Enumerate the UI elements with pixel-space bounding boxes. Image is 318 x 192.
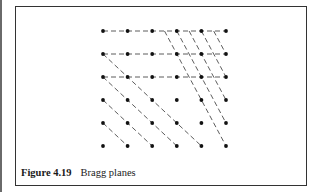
figure-label: Figure 4.19 [21,167,72,178]
lattice-point [150,121,154,125]
steep-plane-line [165,31,227,146]
lattice-point [224,98,228,102]
lattice-point [200,29,204,33]
lattice-point [126,121,130,125]
lattice-point [150,29,154,33]
lattice-point [150,98,154,102]
lattice-point [224,29,228,33]
lattice-point [126,75,130,79]
figure-caption: Figure 4.19Bragg planes [21,167,136,178]
lattice-point [200,75,204,79]
lattice-point [224,144,228,148]
plane-lines [103,31,226,146]
lattice-point [175,29,179,33]
lattice-point [224,121,228,125]
lattice-point [101,98,105,102]
lattice-point [150,144,154,148]
bragg-lattice-diagram [0,0,318,192]
lattice-point [175,144,179,148]
steep-plane-line [201,31,226,77]
lattice-point [200,98,204,102]
lattice-point [126,144,130,148]
lattice-point [224,52,228,56]
lattice-points [101,29,228,148]
steep-plane-line [214,31,226,54]
lattice-point [175,98,179,102]
lattice-point [101,75,105,79]
lattice-point [175,52,179,56]
diagonal-plane-line [103,77,177,146]
lattice-point [126,98,130,102]
lattice-point [150,75,154,79]
lattice-point [126,29,130,33]
lattice-point [175,75,179,79]
lattice-point [101,121,105,125]
lattice-point [200,121,204,125]
lattice-point [224,75,228,79]
lattice-point [101,29,105,33]
diagonal-plane-line [103,123,128,146]
lattice-point [101,144,105,148]
lattice-point [101,52,105,56]
lattice-point [150,52,154,56]
figure-title: Bragg planes [81,167,136,178]
lattice-point [200,52,204,56]
lattice-point [175,121,179,125]
lattice-point [126,52,130,56]
lattice-point [200,144,204,148]
steep-plane-line [189,31,226,100]
